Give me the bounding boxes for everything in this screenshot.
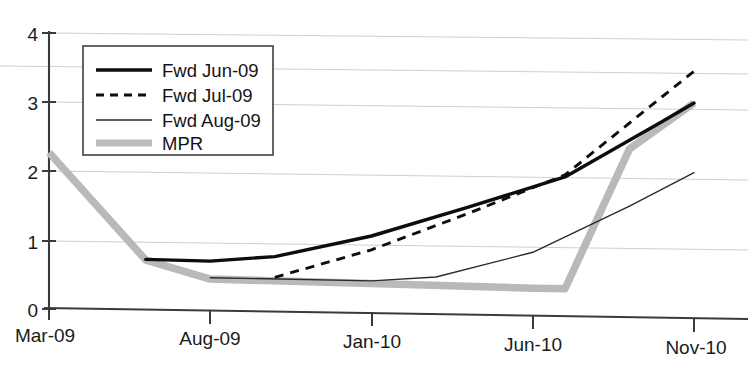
- chart-container: 4 3 2 1 0 Mar-09 Aug-09 Jan-10 Jun-10 No…: [0, 0, 750, 372]
- gridline-2: [49, 171, 748, 180]
- y-axis-labels: 4 3 2 1 0: [27, 24, 38, 321]
- y-label-4: 4: [27, 24, 38, 45]
- legend-label-fwd-jun-09: Fwd Jun-09: [162, 60, 259, 81]
- y-label-2: 2: [27, 162, 38, 183]
- gridline-1: [49, 241, 748, 250]
- legend-label-mpr: MPR: [162, 133, 203, 154]
- series-fwd-aug-09-path: [210, 173, 694, 281]
- line-chart: 4 3 2 1 0 Mar-09 Aug-09 Jan-10 Jun-10 No…: [0, 0, 750, 372]
- gridline-4: [49, 33, 748, 40]
- x-axis-labels: Mar-09 Aug-09 Jan-10 Jun-10 Nov-10: [15, 325, 727, 358]
- y-label-1: 1: [27, 232, 38, 253]
- x-label-jan-10: Jan-10: [343, 331, 401, 352]
- legend-label-fwd-jul-09: Fwd Jul-09: [162, 85, 252, 106]
- legend-label-fwd-aug-09: Fwd Aug-09: [162, 110, 261, 131]
- x-label-nov-10: Nov-10: [665, 337, 726, 358]
- y-label-0: 0: [27, 300, 38, 321]
- y-label-3: 3: [27, 93, 38, 114]
- x-label-aug-09: Aug-09: [179, 328, 240, 349]
- x-label-jun-10: Jun-10: [504, 334, 562, 355]
- legend: Fwd Jun-09 Fwd Jul-09 Fwd Aug-09 MPR: [83, 46, 273, 155]
- x-axis-line: [44, 308, 748, 319]
- x-label-mar-09: Mar-09: [15, 325, 75, 346]
